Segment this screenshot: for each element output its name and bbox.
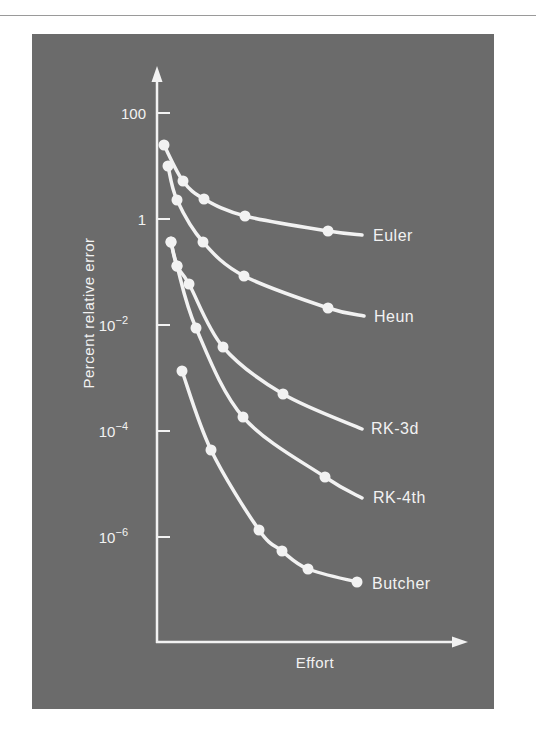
series-label: Butcher: [372, 575, 431, 592]
data-point-marker: [240, 211, 251, 222]
data-point-marker: [166, 237, 177, 248]
series-label: Euler: [373, 227, 413, 244]
data-point-marker: [172, 195, 183, 206]
data-point-marker: [239, 271, 250, 282]
y-tick-label: 100: [121, 105, 146, 122]
y-axis: 100110−210−410−6: [99, 66, 170, 643]
error-vs-effort-chart: 100110−210−410−6 Effort Percent relative…: [0, 0, 536, 742]
data-point-marker: [159, 140, 170, 151]
series-label: Heun: [374, 308, 414, 325]
data-point-marker: [172, 261, 183, 272]
series-rk-4th: RK-4th: [166, 237, 426, 507]
data-point-marker: [184, 279, 195, 290]
data-point-marker: [198, 237, 209, 248]
data-point-marker: [178, 176, 189, 187]
series-line: [164, 145, 362, 235]
data-point-marker: [320, 472, 331, 483]
y-ticks: 100110−210−410−6: [99, 105, 170, 546]
series-euler: Euler: [159, 140, 414, 245]
series-label: RK-4th: [373, 489, 426, 506]
series-butcher: Butcher: [177, 366, 431, 593]
y-tick-label: 1: [138, 211, 146, 228]
data-point-marker: [277, 546, 288, 557]
x-axis-title: Effort: [296, 654, 335, 671]
series-rk-3d: RK-3d: [166, 237, 419, 438]
data-point-marker: [206, 445, 217, 456]
data-point-marker: [323, 303, 334, 314]
data-point-marker: [177, 366, 188, 377]
y-tick-label: 10−4: [99, 420, 128, 440]
data-point-marker: [303, 564, 314, 575]
y-axis-title: Percent relative error: [80, 237, 97, 388]
series-line: [171, 242, 362, 498]
series-group: EulerHeunRK-3dRK-4thButcher: [159, 140, 431, 593]
data-point-marker: [191, 323, 202, 334]
data-point-marker: [199, 194, 210, 205]
data-point-marker: [278, 389, 289, 400]
y-tick-label: 10−6: [99, 526, 128, 546]
series-label: RK-3d: [371, 420, 419, 437]
data-point-marker: [238, 412, 249, 423]
data-point-marker: [352, 577, 363, 588]
series-line: [182, 371, 357, 582]
data-point-marker: [323, 226, 334, 237]
data-point-marker: [163, 161, 174, 172]
data-point-marker: [254, 525, 265, 536]
x-axis-arrow-icon: [452, 637, 468, 648]
data-point-marker: [218, 342, 229, 353]
series-line: [168, 166, 364, 316]
y-axis-arrow-icon: [152, 66, 163, 82]
y-tick-label: 10−2: [99, 314, 128, 334]
x-axis: [156, 637, 468, 648]
